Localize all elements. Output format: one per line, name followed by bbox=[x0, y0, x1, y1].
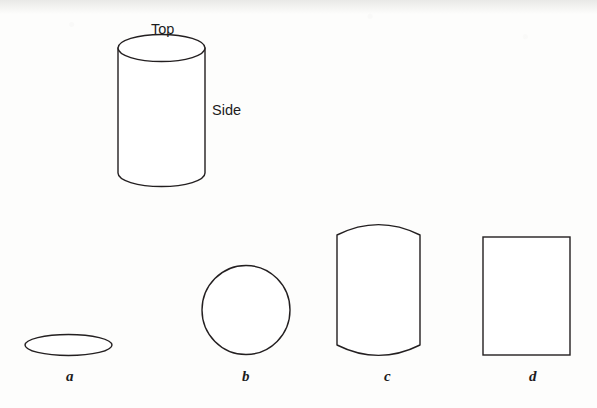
shape-label-c: c bbox=[384, 368, 391, 385]
side-callout-label: Side bbox=[212, 102, 241, 118]
circle-shape bbox=[202, 266, 290, 355]
plain-rectangle-shape bbox=[483, 237, 570, 355]
cylinder-side-surface bbox=[118, 48, 205, 187]
top-callout-label: Top bbox=[151, 21, 174, 37]
flat-ellipse-shape bbox=[25, 335, 112, 356]
curved-edge-rectangle-shape bbox=[337, 225, 420, 356]
shape-label-d: d bbox=[529, 368, 537, 385]
3d-cylinder bbox=[118, 35, 205, 187]
shape-label-a: a bbox=[66, 368, 74, 385]
cylinder-top-ellipse bbox=[118, 35, 205, 62]
figure-canvas bbox=[0, 0, 597, 408]
shape-label-b: b bbox=[242, 368, 250, 385]
